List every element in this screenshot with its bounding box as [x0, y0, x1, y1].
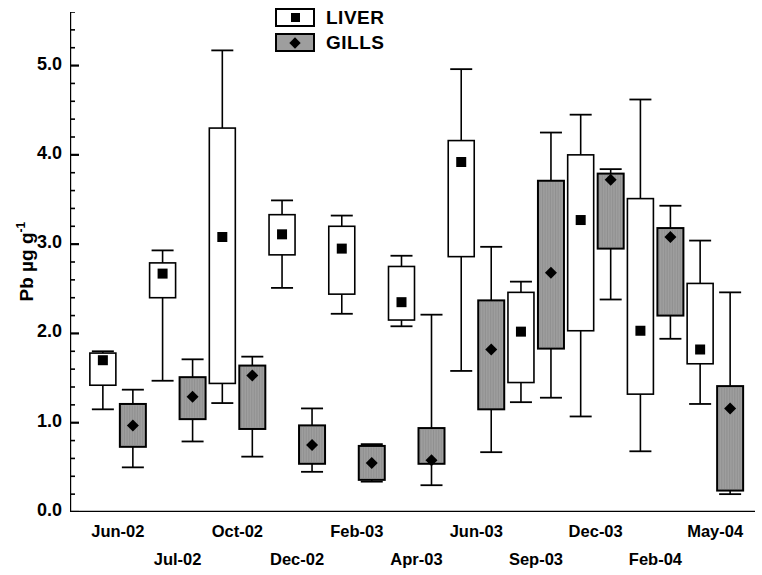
y-tick-label: 4.0	[16, 143, 62, 164]
box-liver-sep-03-rect	[508, 292, 534, 382]
x-tick-label: Oct-02	[192, 522, 282, 541]
boxplot-figure: Pb µg g-1 0.01.02.03.04.05.0 Jun-02Jul-0…	[0, 0, 762, 575]
legend-swatch-liver	[275, 8, 315, 27]
x-tick-label: Jun-03	[431, 522, 521, 541]
legend-swatch-gills	[275, 33, 315, 52]
box-liver-dec-03-mean-square-marker	[576, 215, 586, 225]
box-liver-dec-02-mean-square-marker	[277, 229, 287, 239]
box-gills-sep-03-rect	[538, 181, 564, 349]
plot-area	[70, 12, 755, 512]
square-marker-icon	[291, 13, 300, 22]
box-liver-apr-03-rect	[389, 266, 415, 320]
box-liver-oct-02-mean-square-marker	[217, 232, 227, 242]
box-liver-jun-02-mean-square-marker	[98, 355, 108, 365]
x-tick-label: Feb-04	[610, 550, 700, 569]
legend: LIVER GILLS	[275, 6, 450, 56]
x-tick-label: Dec-02	[252, 550, 342, 569]
box-liver-feb-04-rect	[627, 199, 653, 395]
diamond-marker-icon	[289, 37, 300, 48]
y-tick-label: 2.0	[16, 321, 62, 342]
y-tick-label: 0.0	[16, 500, 62, 521]
box-liver-oct-02-rect	[209, 128, 235, 383]
box-liver-jul-02-rect	[150, 263, 176, 298]
x-tick-label: Jun-02	[73, 522, 163, 541]
x-tick-label: May-04	[670, 522, 760, 541]
y-tick-label: 3.0	[16, 232, 62, 253]
legend-label-gills: GILLS	[326, 32, 384, 54]
box-liver-apr-03-mean-square-marker	[397, 297, 407, 307]
box-liver-sep-03-mean-square-marker	[516, 327, 526, 337]
box-liver-feb-04-mean-square-marker	[635, 326, 645, 336]
y-axis-title-exponent: -1	[14, 222, 28, 233]
y-axis-title: Pb µg g-1	[14, 192, 37, 332]
x-tick-label: Jul-02	[133, 550, 223, 569]
x-tick-label: Apr-03	[372, 550, 462, 569]
x-tick-label: Dec-03	[551, 522, 641, 541]
legend-item-liver: LIVER	[275, 6, 450, 29]
y-tick-label: 5.0	[16, 54, 62, 75]
legend-item-gills: GILLS	[275, 31, 450, 54]
y-tick-label: 1.0	[16, 411, 62, 432]
box-liver-feb-03-mean-square-marker	[337, 244, 347, 254]
box-liver-may-04-mean-square-marker	[695, 345, 705, 355]
legend-label-liver: LIVER	[326, 7, 384, 29]
box-liver-dec-03-rect	[568, 155, 594, 331]
x-tick-label: Feb-03	[312, 522, 402, 541]
box-gills-may-04-rect	[717, 386, 743, 490]
box-liver-feb-03-rect	[329, 226, 355, 294]
box-liver-jul-02-mean-square-marker	[158, 269, 168, 279]
boxplot-canvas	[70, 12, 755, 512]
box-liver-jun-03-mean-square-marker	[456, 157, 466, 167]
x-tick-label: Sep-03	[491, 550, 581, 569]
